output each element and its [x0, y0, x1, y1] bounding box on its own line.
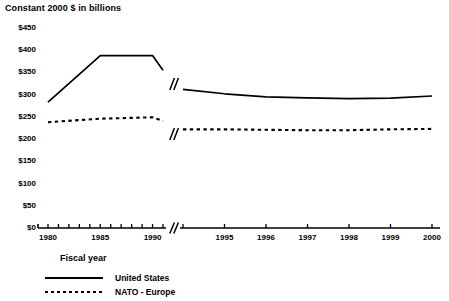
axis-break-marks — [170, 78, 179, 234]
x-axis-title: Fiscal year — [60, 253, 107, 263]
series-line-united-states-seg1 — [183, 89, 432, 98]
axis-break-mark-nato-europe — [170, 128, 179, 140]
series-line-united-states-seg0 — [48, 56, 163, 103]
axis-lines — [38, 224, 440, 228]
legend-label-nato-europe: NATO - Europe — [115, 287, 175, 297]
legend-label-united-states: United States — [115, 273, 169, 283]
legend-item-nato-europe: NATO - Europe — [45, 285, 175, 299]
legend-item-united-states: United States — [45, 271, 175, 285]
chart-legend: United States NATO - Europe — [45, 271, 175, 299]
chart-container: Constant 2000 $ in billions $450$400$350… — [0, 0, 449, 301]
axis-break-mark-x-axis — [170, 223, 179, 234]
series-line-nato-europe-seg1 — [183, 129, 432, 130]
legend-key-dotted-line-icon — [45, 287, 103, 297]
legend-key-solid-line-icon — [45, 273, 103, 283]
axis-break-mark-united-states — [170, 78, 179, 90]
series-line-nato-europe-seg0 — [48, 117, 163, 122]
data-series-layer — [48, 56, 432, 131]
